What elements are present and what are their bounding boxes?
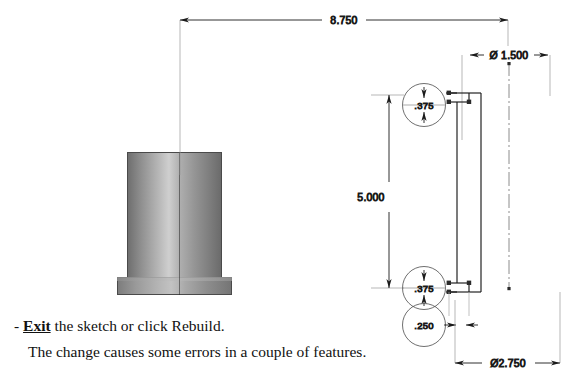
dimension-label-inner-diameter: Ø 1.500 — [490, 49, 529, 61]
dimension-outer-diameter — [455, 292, 560, 363]
sketch-profile — [446, 91, 481, 316]
caption-line-1-rest: the sketch or click Rebuild. — [51, 317, 225, 334]
dimension-label-overall-length: 8.750 — [330, 14, 357, 26]
caption-line-1: - Exit the sketch or click Rebuild. — [14, 313, 344, 339]
caption-line-2-rest: The change causes some errors in a coupl… — [28, 343, 366, 360]
caption-keyword-exit: Exit — [23, 317, 51, 334]
caption-line-2: The change causes some errors in a coupl… — [14, 339, 344, 365]
dimension-inner-diameter — [462, 55, 550, 140]
dimension-overall-length — [180, 20, 508, 175]
dimension-label-height: 5.000 — [357, 191, 384, 203]
dimension-label-wall-bottom: .375 — [414, 283, 433, 294]
dimension-label-flange-thickness: .250 — [414, 320, 433, 331]
dimension-label-wall-top: .375 — [414, 100, 433, 111]
dimension-label-outer-diameter: Ø2.750 — [490, 357, 526, 369]
caption-block: - Exit the sketch or click Rebuild. The … — [14, 313, 344, 365]
slide-canvas: 8.750 Ø 1.500 — [0, 0, 578, 390]
sketch-centerline — [507, 62, 510, 290]
caption-line-1-prefix: - — [14, 317, 23, 334]
